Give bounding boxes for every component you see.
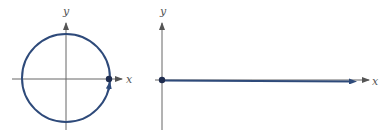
y-axis-label: y [62,5,70,18]
horizontal-path [162,81,353,82]
x-axis-label: x [126,73,133,86]
circle-diagram: y x [12,5,133,130]
figure-canvas: y x y x [0,0,392,138]
y-axis-label: y [159,5,167,18]
start-point [106,76,112,82]
direction-arrow-icon [109,85,110,90]
start-point [159,77,165,83]
line-diagram: y x [155,5,379,130]
x-axis-label: x [372,75,379,88]
